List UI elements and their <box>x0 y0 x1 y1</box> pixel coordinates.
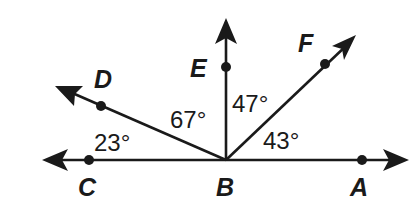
angle-label-cbd: 23° <box>94 129 130 156</box>
point-c <box>84 155 94 165</box>
angle-label-dbe: 67° <box>170 106 206 133</box>
angle-label-fba: 43° <box>263 127 299 154</box>
label-d: D <box>94 65 112 93</box>
point-e <box>221 62 231 72</box>
point-a <box>357 155 367 165</box>
label-c: C <box>78 173 97 201</box>
point-f <box>320 59 330 69</box>
label-a: A <box>349 173 368 201</box>
angle-diagram: D E F C B A 23° 67° 47° 43° <box>0 0 419 212</box>
label-e: E <box>190 54 208 82</box>
point-d <box>96 101 106 111</box>
label-f: F <box>298 29 314 57</box>
angle-label-ebf: 47° <box>232 90 268 117</box>
label-b: B <box>216 173 234 201</box>
